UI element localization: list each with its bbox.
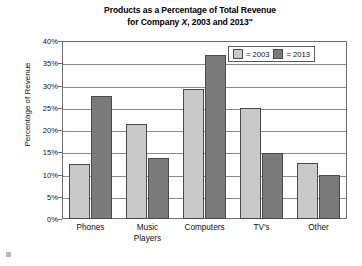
x-label-line: Computers xyxy=(176,222,233,233)
x-label-line: Phones xyxy=(62,222,119,233)
bar-group xyxy=(290,41,347,219)
x-label-tv-s: TV's xyxy=(233,222,290,233)
bar-other-2013 xyxy=(319,175,340,220)
x-label-line: Other xyxy=(290,222,347,233)
bar-other-2003 xyxy=(297,163,318,220)
x-label-line: Players xyxy=(119,233,176,244)
y-tick-label: 20% xyxy=(32,126,58,135)
bar-tv-s-2013 xyxy=(262,153,283,219)
y-tick-label: 35% xyxy=(32,59,58,68)
bar-group xyxy=(62,41,119,219)
bar-group xyxy=(119,41,176,219)
x-label-computers: Computers xyxy=(176,222,233,233)
x-label-line: TV's xyxy=(233,222,290,233)
y-tick-label: 25% xyxy=(32,103,58,112)
x-label-other: Other xyxy=(290,222,347,233)
bar-group xyxy=(233,41,290,219)
bar-chart: Products as a Percentage of Total Revenu… xyxy=(0,0,362,266)
bar-music-players-2003 xyxy=(126,124,147,219)
legend-label-2003: = 2003 xyxy=(246,50,269,59)
chart-title-line2-prefix: for Company xyxy=(127,17,181,27)
bar-phones-2003 xyxy=(69,164,90,219)
y-tick-label: 5% xyxy=(32,192,58,201)
x-label-music-players: MusicPlayers xyxy=(119,222,176,244)
legend-swatch-2013-icon xyxy=(273,49,283,59)
bar-music-players-2013 xyxy=(148,158,169,219)
bars-layer xyxy=(62,41,347,219)
y-axis-tick-labels: 0%5%10%15%20%25%30%35%40% xyxy=(28,41,58,219)
y-tick-mark xyxy=(58,219,62,220)
bar-computers-2013 xyxy=(205,55,226,219)
legend-label-2013: = 2013 xyxy=(286,50,309,59)
bar-tv-s-2003 xyxy=(240,108,261,219)
y-tick-label: 0% xyxy=(32,215,58,224)
bar-computers-2003 xyxy=(183,89,204,219)
chart-title: Products as a Percentage of Total Revenu… xyxy=(40,5,340,28)
page-corner-artifact xyxy=(6,252,11,257)
bar-phones-2013 xyxy=(91,96,112,219)
x-label-line: Music xyxy=(119,222,176,233)
x-label-phones: Phones xyxy=(62,222,119,233)
chart-title-line1: Products as a Percentage of Total Revenu… xyxy=(104,5,276,15)
legend-swatch-2003-icon xyxy=(233,49,243,59)
x-axis-category-labels: PhonesMusicPlayersComputersTV'sOther xyxy=(62,222,347,262)
y-tick-label: 40% xyxy=(32,37,58,46)
chart-legend: = 2003 = 2013 xyxy=(228,46,315,62)
legend-item-2003: = 2003 xyxy=(233,49,269,59)
legend-item-2013: = 2013 xyxy=(273,49,309,59)
bar-group xyxy=(176,41,233,219)
y-tick-label: 10% xyxy=(32,170,58,179)
chart-title-line2-suffix: , 2003 and 2013" xyxy=(187,17,253,27)
y-tick-label: 30% xyxy=(32,81,58,90)
y-tick-label: 15% xyxy=(32,148,58,157)
